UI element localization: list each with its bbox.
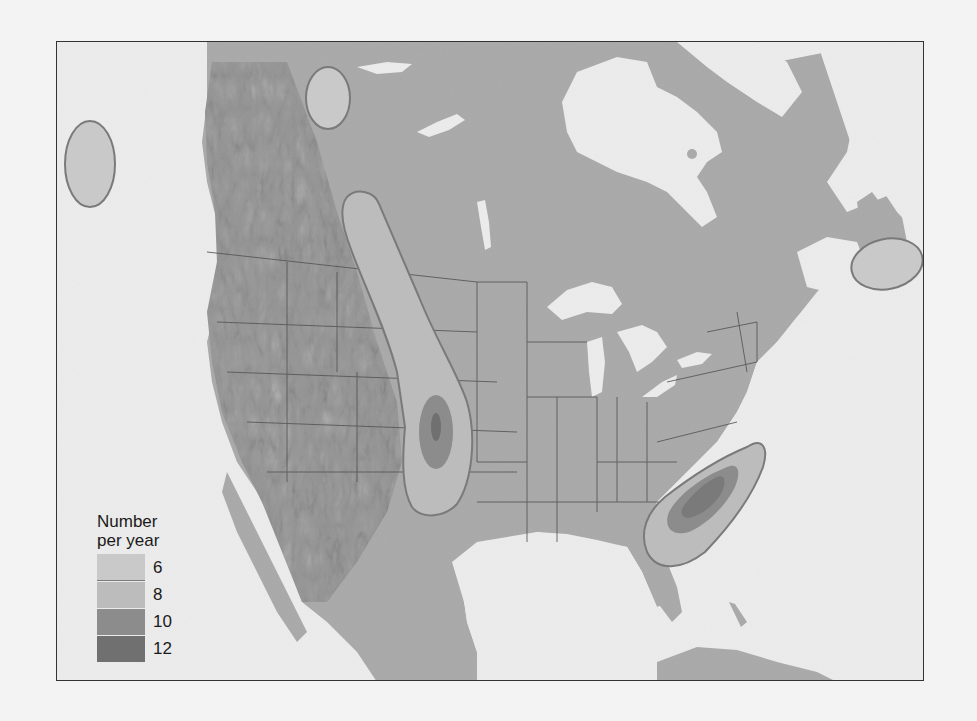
legend-swatch-8 xyxy=(97,582,145,608)
legend-label-8: 8 xyxy=(153,585,162,605)
map-frame: Number per year 6 8 10 12 xyxy=(56,41,924,681)
legend-title-line2: per year xyxy=(97,531,217,550)
legend-item-10: 10 xyxy=(97,608,217,635)
legend-item-6: 6 xyxy=(97,554,217,581)
legend-label-6: 6 xyxy=(153,558,162,578)
legend-swatch-12 xyxy=(97,636,145,662)
zone-great-plains-core xyxy=(431,413,441,441)
legend-swatch-10 xyxy=(97,609,145,635)
legend-title-line1: Number xyxy=(97,512,217,531)
legend-label-12: 12 xyxy=(153,639,172,659)
zone-alberta xyxy=(306,67,350,129)
legend-item-8: 8 xyxy=(97,581,217,608)
legend-label-10: 10 xyxy=(153,612,172,632)
legend-item-12: 12 xyxy=(97,635,217,662)
legend: Number per year 6 8 10 12 xyxy=(97,512,217,662)
legend-items: 6 8 10 12 xyxy=(97,554,217,662)
legend-title: Number per year xyxy=(97,512,217,550)
legend-swatch-6 xyxy=(97,554,145,581)
zone-pacific-offshore xyxy=(65,121,115,207)
